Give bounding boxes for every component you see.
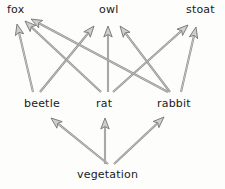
node-label-fox: fox <box>7 4 24 15</box>
arrow-shaft-highlight <box>114 123 157 164</box>
arrow-shaft-highlight <box>125 33 170 92</box>
node-label-beetle: beetle <box>24 98 60 109</box>
arrow-vegetation-to-rat <box>101 118 109 164</box>
node-label-rat: rat <box>96 98 112 109</box>
node-label-vegetation: vegetation <box>77 169 138 180</box>
arrow-rabbit-to-fox <box>31 19 168 92</box>
arrow-vegetation-to-rabbit <box>114 117 164 164</box>
arrow-shaft-highlight <box>19 33 33 92</box>
arrow-shaft-highlight <box>181 36 194 92</box>
arrow-rabbit-to-stoat <box>181 27 198 92</box>
arrow-rabbit-to-owl <box>120 26 170 92</box>
arrow-beetle-to-fox <box>15 24 33 92</box>
arrow-vegetation-to-beetle <box>51 118 108 164</box>
edges-layer <box>15 19 197 164</box>
node-label-stoat: stoat <box>186 4 215 15</box>
node-label-owl: owl <box>99 4 118 15</box>
node-label-rabbit: rabbit <box>157 98 191 109</box>
food-web-diagram: foxowlstoatbeetleratrabbitvegetation <box>0 0 225 189</box>
arrow-shaft-highlight <box>39 23 168 92</box>
food-web-arrows <box>0 0 225 189</box>
